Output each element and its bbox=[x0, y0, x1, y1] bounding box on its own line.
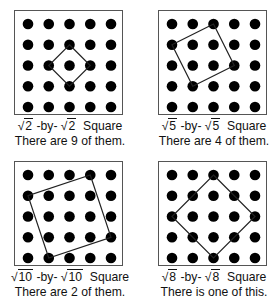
sqrt-radical: √10 bbox=[11, 270, 33, 284]
peg-dot bbox=[167, 102, 178, 113]
peg-dot bbox=[229, 19, 240, 30]
peg-dot bbox=[64, 19, 75, 30]
peg-dot bbox=[229, 81, 240, 92]
peg-dot bbox=[208, 190, 219, 201]
peg-dot bbox=[43, 232, 54, 243]
peg-dot bbox=[64, 253, 75, 264]
panel-sqrt5-square: √5 -by- √5 Square There are 4 of them. bbox=[140, 0, 280, 150]
sqrt-radical: √10 bbox=[61, 270, 83, 284]
panel-sqrt8-square: √8 -by- √8 Square There is one of this. bbox=[140, 150, 280, 300]
peg-dot bbox=[64, 170, 75, 181]
peg-dot bbox=[64, 232, 75, 243]
geoboard-grid bbox=[15, 11, 124, 116]
geoboard-frame bbox=[158, 10, 267, 115]
peg-dot bbox=[208, 60, 219, 71]
peg-dot bbox=[23, 232, 34, 243]
peg-dot bbox=[85, 39, 96, 50]
peg-dot bbox=[106, 102, 117, 113]
peg-dot bbox=[250, 39, 261, 50]
peg-dot bbox=[250, 232, 261, 243]
peg-dot bbox=[250, 19, 261, 30]
geoboard-grid bbox=[159, 162, 268, 267]
peg-dot bbox=[85, 190, 96, 201]
peg-dot bbox=[64, 211, 75, 222]
peg-dot bbox=[250, 170, 261, 181]
sqrt-radical: √2 bbox=[18, 119, 33, 133]
peg-dot bbox=[106, 170, 117, 181]
peg-dot bbox=[85, 232, 96, 243]
count-text: There are 4 of them. bbox=[144, 134, 280, 148]
peg-dot bbox=[106, 39, 117, 50]
peg-dot bbox=[208, 81, 219, 92]
peg-dot bbox=[106, 190, 117, 201]
peg-dot bbox=[85, 102, 96, 113]
peg-dot bbox=[23, 19, 34, 30]
peg-dot bbox=[64, 190, 75, 201]
geoboard-frame bbox=[158, 161, 267, 266]
peg-dot bbox=[250, 190, 261, 201]
peg-dot bbox=[229, 211, 240, 222]
shape-name: Square bbox=[227, 119, 266, 133]
peg-dot bbox=[208, 211, 219, 222]
geoboard-grid bbox=[159, 11, 268, 116]
peg-dot bbox=[85, 211, 96, 222]
peg-dot bbox=[64, 60, 75, 71]
geoboard-frame bbox=[14, 10, 123, 115]
geoboard-frame bbox=[14, 161, 123, 266]
peg-dot bbox=[43, 39, 54, 50]
by-text: -by- bbox=[36, 119, 57, 133]
peg-dot bbox=[229, 170, 240, 181]
peg-dot bbox=[23, 102, 34, 113]
tilted-square-outline bbox=[172, 24, 234, 86]
panel-sqrt2-square: √2 -by- √2 Square There are 9 of them. bbox=[0, 0, 140, 150]
peg-dot bbox=[167, 190, 178, 201]
peg-dot bbox=[250, 81, 261, 92]
peg-dot bbox=[167, 170, 178, 181]
peg-dot bbox=[167, 232, 178, 243]
geoboard-grid bbox=[15, 162, 124, 267]
peg-dot bbox=[167, 19, 178, 30]
shape-name: Square bbox=[83, 119, 122, 133]
peg-dot bbox=[43, 170, 54, 181]
sqrt-radical: √8 bbox=[162, 270, 177, 284]
square-label: √2 -by- √2 Square bbox=[0, 119, 140, 133]
by-text: -by- bbox=[180, 270, 201, 284]
peg-dot bbox=[229, 102, 240, 113]
peg-dot bbox=[43, 211, 54, 222]
peg-dot bbox=[187, 211, 198, 222]
peg-dot bbox=[23, 39, 34, 50]
panel-sqrt10-square: √10 -by- √10 Square There are 2 of them. bbox=[0, 150, 140, 300]
sqrt-radical: √5 bbox=[162, 119, 177, 133]
peg-dot bbox=[43, 190, 54, 201]
shape-name: Square bbox=[227, 270, 266, 284]
peg-dot bbox=[229, 39, 240, 50]
peg-dot bbox=[23, 60, 34, 71]
peg-dot bbox=[187, 39, 198, 50]
peg-dot bbox=[229, 253, 240, 264]
sqrt-radical: √5 bbox=[205, 119, 220, 133]
peg-dot bbox=[187, 170, 198, 181]
peg-dot bbox=[64, 102, 75, 113]
peg-dot bbox=[167, 253, 178, 264]
peg-dot bbox=[250, 60, 261, 71]
count-text: There is one of this. bbox=[144, 285, 280, 299]
shape-name: Square bbox=[90, 270, 129, 284]
square-label: √8 -by- √8 Square bbox=[144, 270, 280, 284]
count-text: There are 9 of them. bbox=[0, 134, 140, 148]
peg-dot bbox=[43, 102, 54, 113]
square-label: √5 -by- √5 Square bbox=[144, 119, 280, 133]
peg-dot bbox=[167, 60, 178, 71]
peg-dot bbox=[23, 211, 34, 222]
sqrt-radical: √2 bbox=[61, 119, 76, 133]
peg-dot bbox=[250, 253, 261, 264]
by-text: -by- bbox=[180, 119, 201, 133]
peg-dot bbox=[167, 81, 178, 92]
peg-dot bbox=[187, 19, 198, 30]
peg-dot bbox=[187, 102, 198, 113]
peg-dot bbox=[23, 170, 34, 181]
peg-dot bbox=[23, 253, 34, 264]
peg-dot bbox=[43, 81, 54, 92]
square-label: √10 -by- √10 Square bbox=[0, 270, 140, 284]
peg-dot bbox=[43, 19, 54, 30]
peg-dot bbox=[208, 102, 219, 113]
